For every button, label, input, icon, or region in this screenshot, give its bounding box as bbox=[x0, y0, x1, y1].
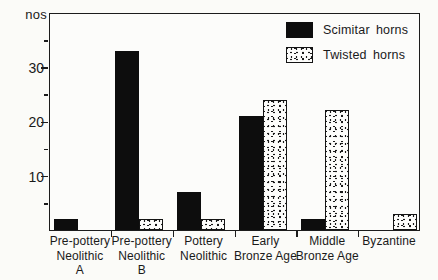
scimitar-horns-bar bbox=[301, 219, 325, 230]
twisted-horns-bar bbox=[263, 100, 287, 230]
y-minor-tick bbox=[44, 40, 48, 41]
y-minor-tick bbox=[44, 203, 48, 204]
goat-horn-cores-bar-chart: nos Goat horn cores 302010 Scimitar horn… bbox=[0, 0, 438, 280]
scimitar-horns-bar bbox=[54, 219, 78, 230]
legend-entry-scimitar-horns: Scimitar horns bbox=[286, 21, 408, 39]
legend-entry-twisted-horns: Twisted horns bbox=[286, 46, 408, 64]
x-category-label-line: Bronze Age bbox=[287, 249, 367, 264]
twisted-horns-bar bbox=[393, 214, 417, 230]
scimitar-horns-bar bbox=[177, 192, 201, 230]
y-tick-label: 20 bbox=[12, 113, 44, 131]
scimitar-horns-bar bbox=[239, 116, 263, 230]
y-tick-label: 30 bbox=[12, 59, 44, 77]
scimitar-horns-bar bbox=[115, 51, 139, 230]
twisted-horns-bar bbox=[325, 110, 349, 230]
twisted-horns-bar bbox=[201, 219, 225, 230]
x-category-label-line: B bbox=[102, 263, 182, 278]
legend: Scimitar horns Twisted horns bbox=[286, 21, 408, 71]
twisted-horns-bar bbox=[139, 219, 163, 230]
scimitar-horns-swatch-icon bbox=[286, 22, 313, 38]
twisted-horns-swatch-icon bbox=[286, 47, 313, 63]
y-tick-label: 10 bbox=[12, 168, 44, 186]
x-category-label-line: Byzantine bbox=[349, 234, 429, 249]
y-minor-tick bbox=[44, 94, 48, 95]
y-minor-tick bbox=[44, 149, 48, 150]
twisted-horns-label: Twisted horns bbox=[323, 48, 405, 62]
y-axis-title: nos bbox=[18, 7, 47, 22]
x-category-label: Byzantine bbox=[349, 234, 429, 249]
scimitar-horns-label: Scimitar horns bbox=[323, 23, 408, 37]
